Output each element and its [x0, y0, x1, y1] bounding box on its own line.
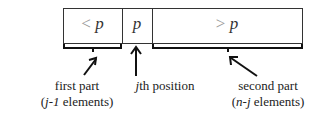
pivot-label: jth position — [120, 78, 210, 94]
arrow-first — [84, 59, 96, 75]
cell-greater-than-pivot: > p — [152, 14, 302, 34]
second-part-brace — [153, 44, 302, 48]
first-part-brace — [64, 44, 121, 48]
second-part-label: second part (n-j elements) — [218, 78, 318, 110]
arrow-second — [231, 58, 257, 76]
first-part-label: first part (j-1 elements) — [22, 78, 132, 110]
cell-pivot: p — [122, 14, 152, 34]
cell-less-than-pivot: < p — [63, 14, 122, 34]
